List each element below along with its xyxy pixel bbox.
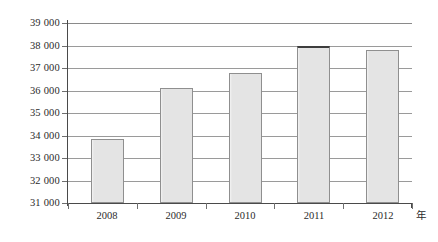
bar bbox=[297, 46, 330, 203]
bar bbox=[366, 50, 399, 203]
plot-area bbox=[68, 23, 412, 203]
gridline bbox=[68, 68, 412, 69]
x-axis-tick-label: 2012 bbox=[353, 209, 413, 222]
y-axis-tick-label: 39 000 bbox=[0, 17, 60, 28]
gridline bbox=[68, 46, 412, 47]
bar-chart: 39 00038 00037 00036 00035 00034 00033 0… bbox=[0, 0, 438, 242]
y-axis-tick-label: 35 000 bbox=[0, 107, 60, 118]
bar bbox=[91, 139, 124, 203]
x-axis-line bbox=[68, 203, 412, 204]
y-axis-tick-label: 33 000 bbox=[0, 152, 60, 163]
y-axis-line bbox=[67, 20, 68, 206]
x-axis-unit-label: 年 bbox=[416, 209, 426, 222]
y-axis-tick-label: 31 000 bbox=[0, 197, 60, 208]
y-axis-tick-label: 32 000 bbox=[0, 175, 60, 186]
y-axis-tick-label: 38 000 bbox=[0, 40, 60, 51]
x-axis-tick-label: 2008 bbox=[77, 209, 137, 222]
bar bbox=[229, 73, 262, 203]
x-axis-tick-label: 2009 bbox=[146, 209, 206, 222]
x-axis-tick bbox=[206, 203, 207, 209]
y-axis-tick-label: 37 000 bbox=[0, 62, 60, 73]
y-axis-tick-label: 36 000 bbox=[0, 85, 60, 96]
x-axis-tick bbox=[137, 203, 138, 209]
x-axis-tick bbox=[68, 203, 69, 209]
gridline bbox=[68, 23, 412, 24]
bar bbox=[160, 88, 193, 203]
x-axis-tick-label: 2010 bbox=[215, 209, 275, 222]
y-axis-tick-label: 34 000 bbox=[0, 130, 60, 141]
x-axis-tick-label: 2011 bbox=[284, 209, 344, 222]
